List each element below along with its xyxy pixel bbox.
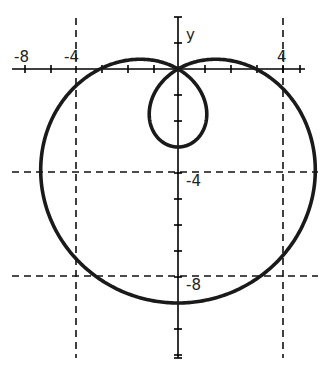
axes bbox=[12, 17, 305, 358]
y-axis-label: y bbox=[186, 26, 195, 44]
x-tick-label-pos4: 4 bbox=[277, 48, 287, 66]
axis-ticks bbox=[25, 43, 300, 355]
y-tick-label-neg8: -8 bbox=[186, 276, 201, 294]
polar-plot: y -8 -4 4 -4 -8 bbox=[0, 0, 333, 367]
x-tick-label-neg8: -8 bbox=[14, 48, 29, 66]
y-tick-label-neg4: -4 bbox=[186, 172, 201, 190]
x-tick-label-neg4: -4 bbox=[64, 48, 79, 66]
